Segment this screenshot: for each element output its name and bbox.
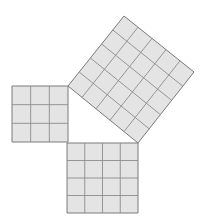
- small-square: [12, 86, 68, 142]
- medium-square: [67, 143, 138, 213]
- pythagorean-diagram: [0, 0, 205, 223]
- large-square: [68, 16, 194, 143]
- small-square-outline: [12, 86, 68, 142]
